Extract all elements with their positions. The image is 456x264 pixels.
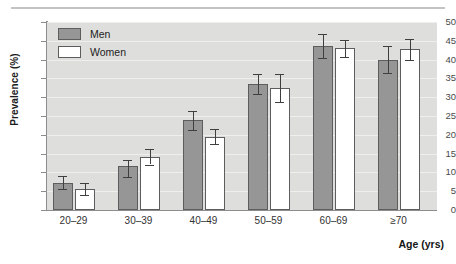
bar-women-4 bbox=[335, 48, 355, 210]
x-tick-label: ≥70 bbox=[369, 215, 429, 226]
x-tick-label: 20–29 bbox=[44, 215, 104, 226]
y-tick-label: 35 bbox=[422, 73, 456, 82]
error-bar-cap-upper bbox=[188, 111, 197, 112]
x-axis-label: Age (yrs) bbox=[398, 238, 444, 250]
y-tick-mark bbox=[41, 191, 46, 192]
error-bar-cap-lower bbox=[253, 94, 262, 95]
x-tick-label: 40–49 bbox=[174, 215, 234, 226]
x-tick-label: 60–69 bbox=[304, 215, 364, 226]
error-bar-cap-lower bbox=[383, 73, 392, 74]
figure-root: 05101520253035404550 20–2930–3940–4950–5… bbox=[0, 0, 456, 264]
y-tick-label: 20 bbox=[422, 130, 456, 139]
legend-item-women: Women bbox=[58, 45, 126, 59]
error-bar-stem bbox=[193, 111, 194, 130]
error-bar-stem bbox=[63, 176, 64, 189]
y-tick-label: 45 bbox=[422, 36, 456, 45]
bar-men-3 bbox=[248, 84, 268, 210]
error-bar-cap-upper bbox=[318, 34, 327, 35]
error-bar-cap-lower bbox=[210, 144, 219, 145]
bar-men-5 bbox=[378, 60, 398, 210]
error-bar-cap-upper bbox=[145, 149, 154, 150]
top-divider-rule bbox=[11, 7, 445, 9]
bar-men-4 bbox=[313, 46, 333, 210]
error-bar-stem bbox=[85, 183, 86, 195]
chart-legend: Men Women bbox=[58, 27, 126, 63]
error-bar-cap-upper bbox=[210, 129, 219, 130]
y-tick-label: 25 bbox=[422, 111, 456, 120]
error-bar-stem bbox=[128, 160, 129, 177]
error-bar-cap-lower bbox=[188, 130, 197, 131]
bar-men-2 bbox=[183, 120, 203, 210]
error-bar-stem bbox=[388, 46, 389, 72]
error-bar-stem bbox=[410, 39, 411, 59]
error-bar-cap-upper bbox=[123, 160, 132, 161]
error-bar-cap-upper bbox=[275, 74, 284, 75]
error-bar-cap-lower bbox=[405, 60, 414, 61]
error-bar-cap-lower bbox=[318, 58, 327, 59]
error-bar-stem bbox=[150, 149, 151, 164]
legend-swatch-women-icon bbox=[58, 46, 81, 58]
y-tick-label: 40 bbox=[422, 55, 456, 64]
gridline bbox=[47, 22, 437, 23]
y-tick-label: 30 bbox=[422, 92, 456, 101]
error-bar-cap-upper bbox=[405, 39, 414, 40]
y-tick-mark bbox=[41, 22, 46, 23]
y-axis-label: Prevalence (%) bbox=[9, 30, 20, 150]
y-tick-mark bbox=[41, 154, 46, 155]
y-tick-mark bbox=[41, 60, 46, 61]
y-tick-label: 5 bbox=[422, 186, 456, 195]
y-tick-mark bbox=[41, 41, 46, 42]
bar-women-3 bbox=[270, 88, 290, 210]
y-tick-label: 50 bbox=[422, 17, 456, 26]
legend-item-men: Men bbox=[58, 27, 126, 41]
error-bar-stem bbox=[258, 74, 259, 94]
y-tick-label: 15 bbox=[422, 149, 456, 158]
error-bar-cap-lower bbox=[80, 195, 89, 196]
error-bar-cap-lower bbox=[58, 189, 67, 190]
y-tick-mark bbox=[41, 78, 46, 79]
error-bar-cap-upper bbox=[253, 74, 262, 75]
bar-women-5 bbox=[400, 49, 420, 210]
error-bar-cap-lower bbox=[123, 177, 132, 178]
error-bar-cap-lower bbox=[340, 57, 349, 58]
error-bar-stem bbox=[323, 34, 324, 58]
error-bar-cap-lower bbox=[275, 102, 284, 103]
error-bar-stem bbox=[280, 74, 281, 102]
error-bar-cap-upper bbox=[383, 46, 392, 47]
y-tick-mark bbox=[41, 97, 46, 98]
y-tick-label: 10 bbox=[422, 167, 456, 176]
y-tick-mark bbox=[41, 116, 46, 117]
legend-label-women: Women bbox=[90, 46, 126, 58]
x-tick-label: 50–59 bbox=[239, 215, 299, 226]
error-bar-cap-upper bbox=[58, 176, 67, 177]
error-bar-stem bbox=[345, 40, 346, 57]
error-bar-cap-upper bbox=[80, 183, 89, 184]
x-tick-label: 30–39 bbox=[109, 215, 169, 226]
y-tick-mark bbox=[41, 210, 46, 211]
error-bar-stem bbox=[215, 129, 216, 144]
error-bar-cap-upper bbox=[340, 40, 349, 41]
y-tick-label: 0 bbox=[422, 205, 456, 214]
legend-swatch-men-icon bbox=[58, 28, 81, 40]
error-bar-cap-lower bbox=[145, 165, 154, 166]
y-tick-mark bbox=[41, 172, 46, 173]
y-tick-mark bbox=[41, 135, 46, 136]
legend-label-men: Men bbox=[90, 28, 110, 40]
bar-women-2 bbox=[205, 137, 225, 210]
